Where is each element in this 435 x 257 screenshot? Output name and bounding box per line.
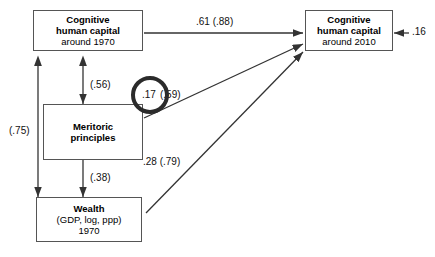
node-label-line1: Cognitive bbox=[327, 14, 370, 25]
node-label-line2: human capital bbox=[317, 25, 381, 36]
edge-label-ch1970-merit: (.56) bbox=[90, 80, 111, 90]
edge-merit-to-ch2010 bbox=[144, 44, 303, 118]
edge-label-merit-wealth: (.38) bbox=[90, 173, 111, 183]
node-meritoric-principles[interactable]: Meritoric principles bbox=[43, 104, 143, 160]
highlight-circle-icon bbox=[131, 76, 169, 114]
node-cognitive-human-capital-2010[interactable]: Cognitive human capital around 2010 bbox=[305, 10, 393, 51]
node-label-line2: (GDP, log, ppp) bbox=[57, 214, 122, 225]
edge-label-residual-ch2010: .16 bbox=[412, 27, 426, 37]
node-label-line3: around 2010 bbox=[322, 36, 375, 47]
edge-wealth-to-ch2010 bbox=[146, 52, 303, 213]
node-label-line3: 1970 bbox=[78, 225, 99, 236]
edge-label-ch1970-to-ch2010: .61 (.88) bbox=[196, 17, 233, 27]
node-label-line1: Wealth bbox=[74, 203, 105, 214]
node-label-line1: Cognitive bbox=[66, 14, 109, 25]
edge-label-ch1970-wealth: (.75) bbox=[9, 126, 30, 136]
node-label-line2: human capital bbox=[56, 25, 120, 36]
node-cognitive-human-capital-1970[interactable]: Cognitive human capital around 1970 bbox=[33, 10, 143, 51]
node-label-line2: principles bbox=[71, 132, 116, 143]
node-label-line3: around 1970 bbox=[61, 36, 114, 47]
path-diagram: Cognitive human capital around 1970 Cogn… bbox=[0, 0, 435, 257]
edge-label-wealth-to-ch2010: .28 (.79) bbox=[143, 157, 180, 167]
node-label-line1: Meritoric bbox=[73, 121, 113, 132]
node-wealth[interactable]: Wealth (GDP, log, ppp) 1970 bbox=[36, 197, 142, 242]
